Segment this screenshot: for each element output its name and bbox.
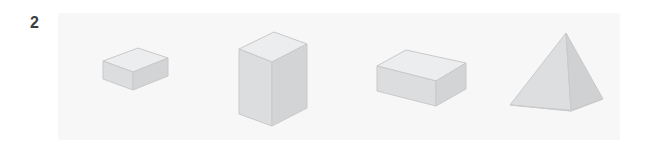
figure-panel xyxy=(58,13,620,140)
shape-square-pyramid xyxy=(510,33,603,111)
pyramid-left-face xyxy=(510,33,571,111)
pyramid-right-face xyxy=(566,33,603,111)
question-number-label: 2 xyxy=(30,14,39,32)
tall-prism-front-face xyxy=(239,49,272,126)
shape-tall-rectangular-prism xyxy=(239,32,307,126)
shape-long-rectangular-prism xyxy=(377,50,466,106)
question-figure-container: 2 xyxy=(0,0,648,153)
solid-shapes-illustration xyxy=(58,13,620,140)
shape-flat-rectangular-prism xyxy=(103,48,168,90)
